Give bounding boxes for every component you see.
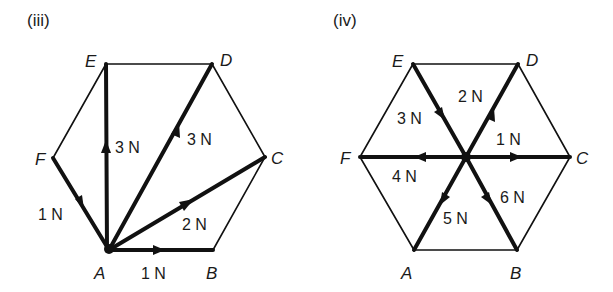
diagram-iii-title: (iii) <box>27 11 50 30</box>
force-label-OC-iv: 1 N <box>496 131 521 148</box>
point-O-iv <box>461 152 471 162</box>
vertex-label-B-iii: B <box>206 264 217 283</box>
vertex-label-E-iv: E <box>392 52 404 71</box>
force-label-EO-iv: 3 N <box>397 110 422 127</box>
force-FA-iii <box>53 158 109 250</box>
force-label-OA-iv: 5 N <box>443 210 468 227</box>
force-OF-iv <box>360 152 466 162</box>
force-label-AC-iii: 2 N <box>182 216 207 233</box>
force-OA-iv <box>414 157 466 250</box>
vertex-label-F-iv: F <box>340 149 352 168</box>
force-label-OF-iv: 4 N <box>392 168 417 185</box>
vertex-label-A-iii: A <box>93 264 105 283</box>
vertex-label-B-iv: B <box>510 264 521 283</box>
arrowhead-icon <box>414 152 426 162</box>
arrowhead-icon <box>510 152 522 162</box>
force-label-AD-iii: 3 N <box>187 131 212 148</box>
vertex-label-C-iii: C <box>271 149 284 168</box>
arrowhead-icon <box>440 192 450 205</box>
force-label-AB-iii: 1 N <box>141 265 166 282</box>
force-diagrams-canvas: (iii) A B C D E F 1 N <box>0 0 613 292</box>
force-label-AE-iii: 3 N <box>115 139 140 156</box>
vertex-label-F-iii: F <box>35 150 47 169</box>
point-A-iii <box>104 244 114 254</box>
diagram-iii: (iii) A B C D E F 1 N <box>27 11 284 283</box>
force-AC-iii <box>109 157 265 250</box>
arrowhead-icon <box>153 245 165 255</box>
force-OC-iv <box>466 152 570 162</box>
diagram-iv: (iv) A B C D <box>333 11 589 283</box>
vertex-label-E-iii: E <box>85 52 97 71</box>
arrowhead-icon <box>434 107 445 120</box>
force-label-FA-iii: 1 N <box>38 206 63 223</box>
force-label-OD-iv: 2 N <box>458 88 483 105</box>
vertex-label-D-iii: D <box>220 51 232 70</box>
force-label-OB-iv: 6 N <box>500 189 525 206</box>
vertex-label-A-iv: A <box>400 264 412 283</box>
force-AB-iii <box>109 245 213 255</box>
force-AE-iii <box>101 64 111 250</box>
diagram-iv-title: (iv) <box>333 11 357 30</box>
vertex-label-D-iv: D <box>526 51 538 70</box>
vertex-label-C-iv: C <box>576 149 589 168</box>
arrowhead-icon <box>481 192 492 205</box>
arrowhead-icon <box>101 140 111 153</box>
